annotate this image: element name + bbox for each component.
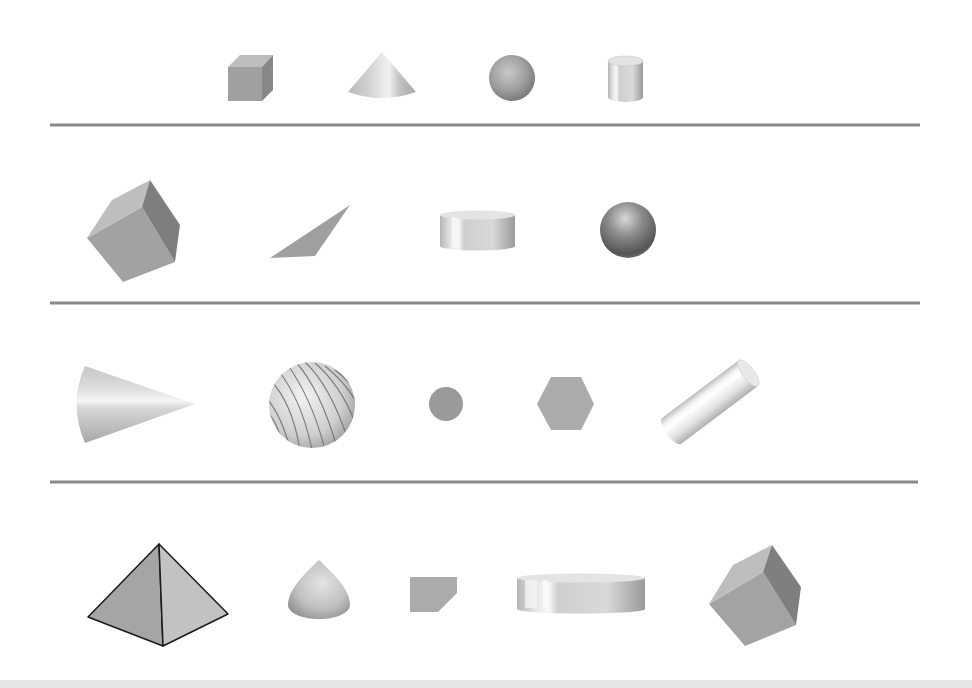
cone-top-view-shape: [288, 560, 350, 619]
textured-sphere-shape: [268, 362, 358, 450]
short-cylinder-shape: [440, 211, 515, 251]
row-3: [77, 357, 763, 450]
pentagon-shape: [410, 577, 457, 612]
tilted-cylinder-shape: [657, 357, 763, 448]
bottom-band: [0, 680, 972, 688]
row-4: [88, 544, 801, 646]
row-2: [87, 180, 656, 282]
cone-shape: [348, 52, 416, 98]
hexagon-shape: [537, 377, 594, 430]
flat-circle-shape: [429, 387, 463, 421]
triangle-shape: [270, 205, 350, 258]
sideways-cone-shape: [77, 366, 196, 443]
rotated-cube-shape: [87, 180, 180, 282]
square-pyramid-shape: [88, 544, 228, 646]
shaded-sphere-shape: [600, 202, 656, 258]
cylinder-shape: [608, 56, 643, 102]
cube-shape: [228, 55, 273, 101]
sphere-shape: [489, 55, 535, 101]
row-1: [228, 52, 643, 102]
shapes-canvas: [0, 0, 972, 688]
wide-cylinder-shape: [517, 574, 645, 614]
rotated-cube-shape-2: [709, 545, 801, 646]
